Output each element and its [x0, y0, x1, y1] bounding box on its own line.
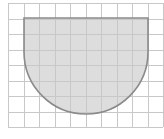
grid-shape-diagram: [0, 0, 164, 139]
